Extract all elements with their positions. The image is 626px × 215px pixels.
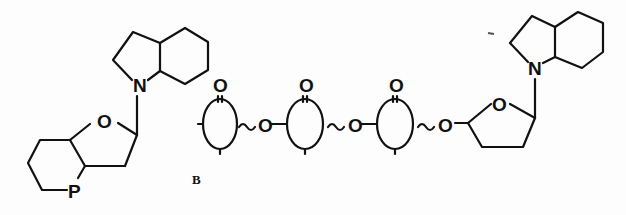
structure-label: B bbox=[192, 172, 201, 187]
bridge-oxygen-1: O bbox=[258, 115, 273, 136]
linker-ring-2: O bbox=[287, 75, 323, 154]
right-indoline-ring: N bbox=[510, 12, 603, 79]
structure-svg: N O P B O O O O bbox=[0, 0, 626, 215]
stray-mark bbox=[488, 33, 494, 34]
left-p-atom: P bbox=[68, 181, 81, 202]
left-indoline-ring: N bbox=[113, 28, 208, 96]
right-n-atom: N bbox=[528, 58, 542, 79]
left-n-atom: N bbox=[133, 75, 147, 96]
left-ring-oxygen: O bbox=[97, 111, 112, 132]
linker-ring-3: O bbox=[377, 75, 413, 154]
bridge-oxygen-2: O bbox=[348, 115, 363, 136]
carbonyl-oxygen-1: O bbox=[213, 75, 228, 96]
linker-ring-1: O bbox=[198, 75, 237, 154]
wavy-bond-3 bbox=[418, 124, 434, 130]
left-fused-ring: O P bbox=[28, 111, 137, 202]
wavy-bond-2 bbox=[328, 124, 344, 130]
carbonyl-oxygen-2: O bbox=[299, 75, 314, 96]
chemical-diagram: N O P B O O O O bbox=[0, 0, 626, 215]
right-furanose-ring: O bbox=[468, 94, 535, 147]
bridge-oxygen-3: O bbox=[438, 115, 453, 136]
wavy-bond-1 bbox=[239, 124, 255, 130]
carbonyl-oxygen-3: O bbox=[389, 75, 404, 96]
right-ring-oxygen: O bbox=[492, 94, 507, 115]
